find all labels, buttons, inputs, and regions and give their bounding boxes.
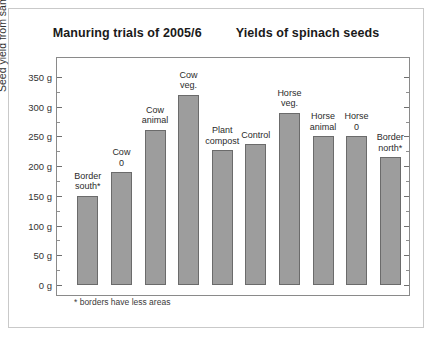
y-tick-major <box>57 226 62 227</box>
y-tick-minor-right <box>406 181 409 182</box>
y-tick-label: 350 g <box>8 72 52 83</box>
bar-category-label: Control <box>234 130 278 141</box>
plot-frame: Border south*Cow 0Cow animalCow veg.Plan… <box>56 57 410 296</box>
y-tick-major <box>57 255 62 256</box>
y-tick-minor-right <box>406 240 409 241</box>
y-tick-label: 150 g <box>8 190 52 201</box>
y-tick-label: 300 g <box>8 101 52 112</box>
y-tick-major-right <box>404 196 409 197</box>
y-tick-minor <box>57 92 60 93</box>
y-tick-label: 100 g <box>8 220 52 231</box>
bar <box>245 144 266 285</box>
chart-titles: Manuring trials of 2005/6 Yields of spin… <box>8 26 424 40</box>
y-tick-minor-right <box>406 92 409 93</box>
bar <box>145 130 166 285</box>
y-tick-major <box>57 166 62 167</box>
bar <box>111 172 132 285</box>
plot-area: Border south*Cow 0Cow animalCow veg.Plan… <box>57 58 409 295</box>
bar <box>178 95 199 285</box>
bar <box>346 136 367 285</box>
y-tick-major-right <box>404 77 409 78</box>
bar <box>313 136 334 285</box>
y-tick-label: 50 g <box>8 250 52 261</box>
y-tick-major-right <box>404 285 409 286</box>
bar-category-label: Horse veg. <box>268 88 312 109</box>
y-tick-minor-right <box>406 270 409 271</box>
y-tick-major-right <box>404 255 409 256</box>
y-tick-minor <box>57 181 60 182</box>
y-tick-minor <box>57 270 60 271</box>
y-tick-label: 250 g <box>8 131 52 142</box>
y-tick-minor-right <box>406 211 409 212</box>
y-tick-major <box>57 136 62 137</box>
bar <box>212 150 233 285</box>
y-tick-major <box>57 77 62 78</box>
y-tick-major <box>57 107 62 108</box>
y-tick-minor <box>57 151 60 152</box>
bar-category-label: Cow veg. <box>167 70 211 91</box>
y-tick-major-right <box>404 166 409 167</box>
y-tick-minor <box>57 122 60 123</box>
y-tick-minor-right <box>406 122 409 123</box>
bar <box>279 113 300 285</box>
y-tick-label: 200 g <box>8 161 52 172</box>
bar-category-label: Cow animal <box>133 105 177 126</box>
y-tick-major <box>57 196 62 197</box>
title-left: Manuring trials of 2005/6 <box>53 26 202 40</box>
bar <box>380 157 401 285</box>
bar-category-label: Cow 0 <box>100 147 144 168</box>
y-tick-major <box>57 285 62 286</box>
bar-category-label: Border south* <box>66 171 110 192</box>
y-tick-major-right <box>404 107 409 108</box>
y-tick-minor <box>57 211 60 212</box>
title-right: Yields of spinach seeds <box>236 26 380 40</box>
footnote: * borders have less areas <box>74 297 170 307</box>
y-tick-minor <box>57 240 60 241</box>
bar-category-label: Horse 0 <box>335 111 379 132</box>
y-axis-tick-labels: 350 g300 g250 g200 g150 g100 g50 g0 g <box>0 0 52 344</box>
bar-category-label: Border north* <box>368 132 412 153</box>
bar <box>77 196 98 285</box>
y-tick-major-right <box>404 226 409 227</box>
y-tick-label: 0 g <box>8 280 52 291</box>
chart-page: Manuring trials of 2005/6 Yields of spin… <box>0 0 436 344</box>
